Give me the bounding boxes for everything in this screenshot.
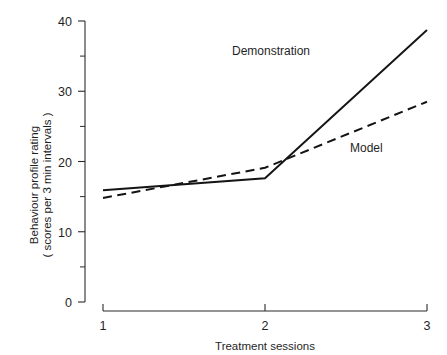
x-tick-label-3: 3	[424, 319, 431, 333]
y-axis-title-line1: Behaviour profile rating	[28, 126, 40, 244]
y-axis-title-line2: ( scores per 3 min intervals )	[41, 112, 53, 257]
y-tick-label-30: 30	[58, 85, 72, 99]
chart-figure: 40 30 20 10 0 1 2 3 Behaviour profile ra…	[0, 0, 447, 355]
y-tick-label-0: 0	[65, 296, 72, 310]
line-chart: 40 30 20 10 0 1 2 3 Behaviour profile ra…	[0, 0, 447, 355]
y-tick-label-10: 10	[58, 226, 72, 240]
series-label-demonstration: Demonstration	[232, 44, 310, 58]
y-tick-label-20: 20	[58, 156, 72, 170]
x-tick-label-1: 1	[100, 319, 107, 333]
y-tick-label-40: 40	[58, 15, 72, 29]
x-axis-title: Treatment sessions	[215, 340, 315, 352]
y-axis-major-ticks	[78, 21, 85, 302]
x-tick-label-2: 2	[262, 319, 269, 333]
x-axis-ticks	[103, 304, 427, 311]
series-label-model: Model	[350, 141, 383, 155]
